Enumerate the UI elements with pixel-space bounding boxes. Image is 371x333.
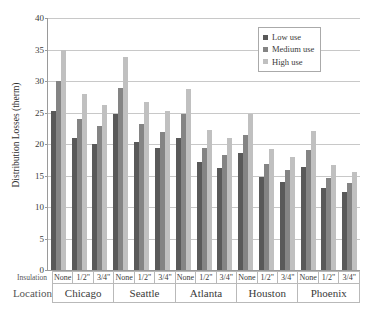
- bar: [352, 172, 357, 270]
- insulation-cell: None: [175, 272, 195, 284]
- city-group: [48, 18, 110, 270]
- location-row-header: Location: [0, 284, 53, 303]
- bar: [186, 89, 191, 270]
- legend-label-high-use: High use: [272, 56, 302, 68]
- legend-label-medium-use: Medium use: [272, 43, 314, 55]
- y-tick-label: 30: [35, 77, 44, 86]
- y-tick-label: 35: [35, 45, 44, 54]
- bar: [331, 165, 336, 270]
- bar-chart: Distribution Losses (therm) 051015202530…: [0, 0, 371, 333]
- y-tick-label: 15: [35, 171, 44, 180]
- insulation-group: [318, 18, 339, 270]
- insulation-cell: None: [114, 272, 134, 284]
- legend-item: High use: [263, 56, 314, 68]
- insulation-cell: 1/2": [73, 272, 93, 284]
- legend-swatch-high-use: [263, 59, 268, 64]
- legend-label-low-use: Low use: [272, 31, 301, 43]
- bar: [123, 57, 128, 270]
- bar: [207, 130, 212, 270]
- legend-swatch-low-use: [263, 35, 268, 40]
- legend-item: Low use: [263, 31, 314, 43]
- insulation-cell: None: [53, 272, 73, 284]
- insulation-cell: 3/4": [93, 272, 113, 284]
- legend-item: Medium use: [263, 43, 314, 55]
- city-group: [110, 18, 172, 270]
- location-row: Location ChicagoSeattleAtlantaHoustonPho…: [0, 284, 360, 303]
- location-cell: Houston: [237, 284, 298, 303]
- bar: [102, 105, 107, 270]
- insulation-cell: None: [237, 272, 257, 284]
- y-tick-label: 40: [35, 14, 44, 23]
- y-axis-title: Distribution Losses (therm): [11, 35, 21, 235]
- bar: [144, 102, 149, 270]
- insulation-cell: 3/4": [277, 272, 297, 284]
- city-group: [173, 18, 235, 270]
- location-cell: Phoenix: [298, 284, 360, 303]
- y-tick-label: 25: [35, 108, 44, 117]
- legend: Low use Medium use High use: [258, 27, 321, 72]
- bar: [269, 149, 274, 270]
- insulation-cell: 3/4": [216, 272, 236, 284]
- insulation-group: [194, 18, 215, 270]
- bar: [290, 157, 295, 270]
- y-tick-label: 10: [35, 203, 44, 212]
- bar: [227, 138, 232, 270]
- insulation-row: Insulation None1/2"3/4"None1/2"3/4"None1…: [0, 272, 360, 284]
- insulation-cell: 3/4": [339, 272, 360, 284]
- insulation-cell: None: [298, 272, 318, 284]
- bar: [82, 94, 87, 270]
- bar: [165, 111, 170, 270]
- insulation-cell: 1/2": [134, 272, 154, 284]
- insulation-group: [110, 18, 131, 270]
- bar: [248, 114, 253, 270]
- bar: [311, 131, 316, 270]
- insulation-row-header: Insulation: [0, 272, 53, 284]
- insulation-cell: 1/2": [318, 272, 338, 284]
- insulation-group: [235, 18, 256, 270]
- insulation-group: [173, 18, 194, 270]
- location-cell: Seattle: [114, 284, 175, 303]
- insulation-group: [90, 18, 111, 270]
- insulation-group: [214, 18, 235, 270]
- y-tick-label: 20: [35, 140, 44, 149]
- insulation-group: [152, 18, 173, 270]
- legend-swatch-medium-use: [263, 47, 268, 52]
- x-axis-table: Insulation None1/2"3/4"None1/2"3/4"None1…: [0, 271, 360, 303]
- location-cell: Chicago: [53, 284, 114, 303]
- location-cell: Atlanta: [175, 284, 236, 303]
- insulation-group: [339, 18, 360, 270]
- insulation-cell: 1/2": [257, 272, 277, 284]
- y-tick-label: 5: [40, 234, 45, 243]
- insulation-group: [48, 18, 69, 270]
- insulation-group: [69, 18, 90, 270]
- insulation-cell: 3/4": [155, 272, 175, 284]
- insulation-cell: 1/2": [196, 272, 216, 284]
- insulation-group: [131, 18, 152, 270]
- bar: [61, 50, 66, 271]
